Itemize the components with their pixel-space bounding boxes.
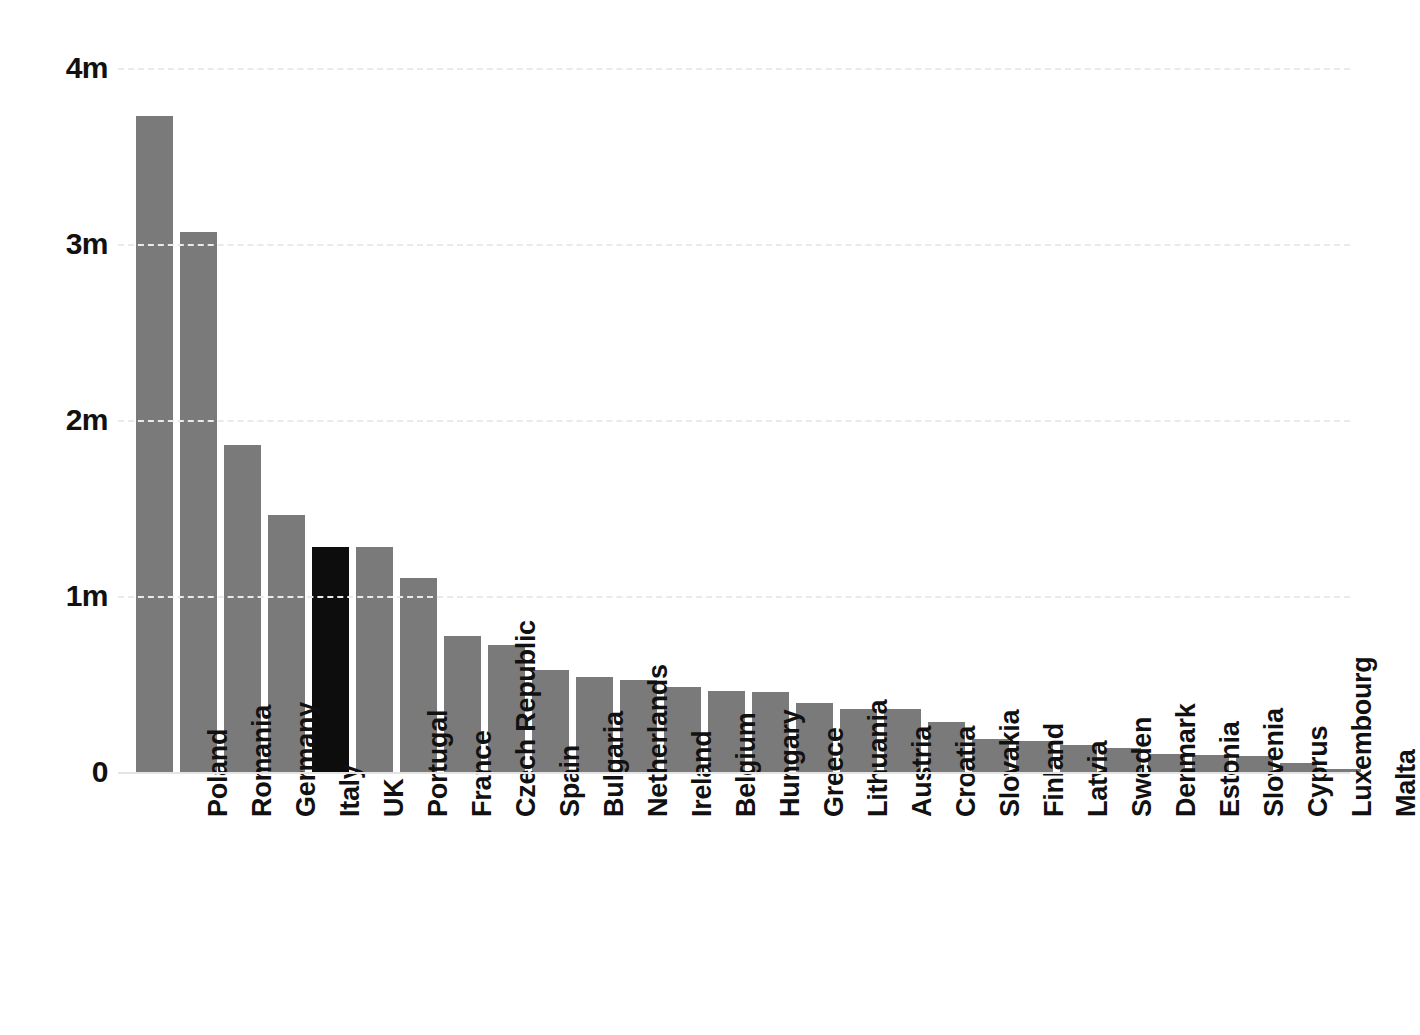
x-axis-label-spain: Spain xyxy=(525,780,556,817)
x-axis-label-greece: Greece xyxy=(789,780,820,817)
gridline-3m xyxy=(118,244,1350,246)
x-axis-label-netherlands: Netherlands xyxy=(613,780,644,817)
x-axis-label-bulgaria: Bulgaria xyxy=(569,780,600,817)
x-axis-label-latvia: Latvia xyxy=(1053,780,1084,817)
y-axis-tick-4m: 4m xyxy=(0,51,120,85)
x-axis-label-romania: Romania xyxy=(217,780,248,817)
x-axis-label-cyprus: Cyprus xyxy=(1273,780,1304,817)
y-axis-tick-0: 0 xyxy=(0,755,120,789)
y-axis-tick-2m: 2m xyxy=(0,403,120,437)
bar-rect xyxy=(136,116,173,772)
x-axis-label-poland: Poland xyxy=(173,780,204,817)
plot-area xyxy=(118,68,1350,772)
x-axis-label-ireland: Ireland xyxy=(657,780,688,817)
gridline-0 xyxy=(118,772,1350,774)
y-axis-labels: 01m2m3m4m xyxy=(0,0,108,1035)
x-axis-labels: PolandRomaniaGermanyItalyUKPortugalFranc… xyxy=(118,780,1350,1030)
x-axis-label-luxembourg: Luxembourg xyxy=(1317,780,1348,817)
y-axis-tick-3m: 3m xyxy=(0,227,120,261)
x-axis-label-italy: Italy xyxy=(305,780,336,817)
x-axis-label-text: Malta xyxy=(1391,780,1420,817)
gridline-4m xyxy=(118,68,1350,70)
x-axis-label-austria: Austria xyxy=(877,780,908,817)
x-axis-label-denmark: Denmark xyxy=(1141,780,1172,817)
x-axis-label-hungary: Hungary xyxy=(745,780,776,817)
x-axis-label-malta: Malta xyxy=(1361,780,1392,817)
x-axis-label-france: France xyxy=(437,780,468,817)
x-axis-label-uk: UK xyxy=(349,780,380,817)
x-axis-label-sweden: Sweden xyxy=(1097,780,1128,817)
x-axis-label-portugal: Portugal xyxy=(393,780,424,817)
gridline-1m xyxy=(118,596,1350,598)
x-axis-label-slovenia: Slovenia xyxy=(1229,780,1260,817)
x-axis-label-czech-republic: Czech Republic xyxy=(481,780,512,817)
bar-rect xyxy=(356,547,393,772)
gridline-2m xyxy=(118,420,1350,422)
x-axis-label-belgium: Belgium xyxy=(701,780,732,817)
x-axis-label-slovakia: Slovakia xyxy=(965,780,996,817)
y-axis-tick-1m: 1m xyxy=(0,579,120,613)
bar-rect xyxy=(180,232,217,772)
x-axis-label-lithuania: Lithuania xyxy=(833,780,864,817)
x-axis-label-germany: Germany xyxy=(261,780,292,817)
x-axis-label-estonia: Estonia xyxy=(1185,780,1216,817)
x-axis-label-finland: Finland xyxy=(1009,780,1040,817)
x-axis-label-croatia: Croatia xyxy=(921,780,952,817)
